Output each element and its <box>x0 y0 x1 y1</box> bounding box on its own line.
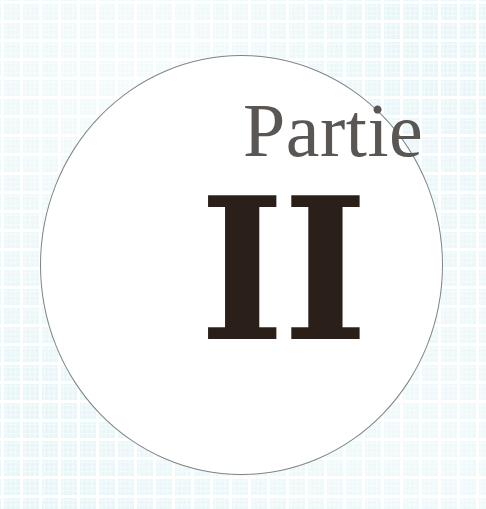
part-roman-numeral: II <box>199 172 290 368</box>
page-root: Partie II <box>0 0 486 509</box>
